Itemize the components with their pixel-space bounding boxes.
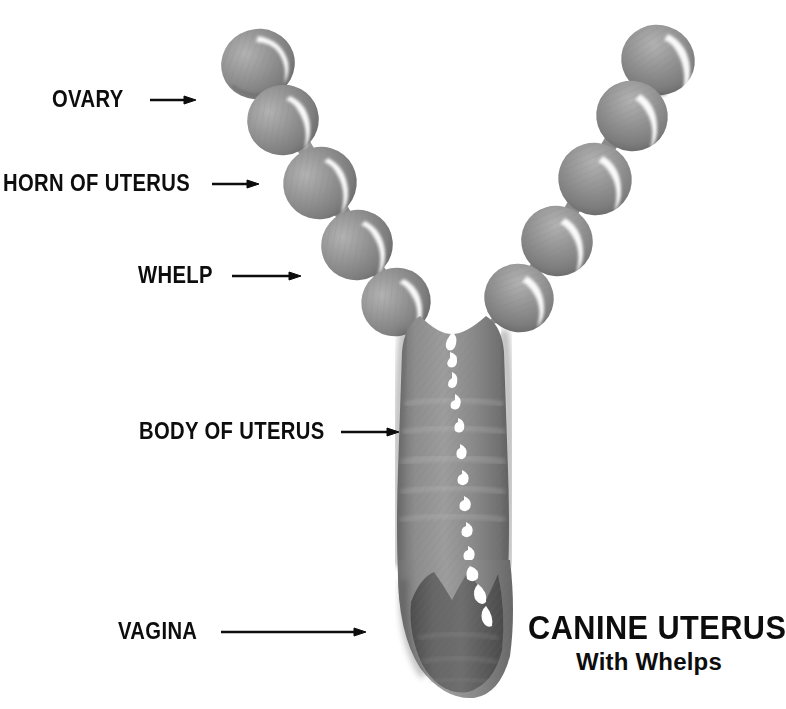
figure-title: CANINE UTERUS: [528, 609, 786, 647]
label-whelp: WHELP: [138, 262, 213, 289]
label-body-of-uterus: BODY OF UTERUS: [139, 418, 325, 445]
label-horn-of-uterus: HORN OF UTERUS: [3, 170, 190, 197]
label-ovary: OVARY: [52, 86, 123, 113]
uterus-body: [397, 316, 509, 572]
figure-subtitle: With Whelps: [576, 648, 722, 676]
label-vagina: VAGINA: [118, 618, 197, 645]
uterus-body-right-shadow: [504, 330, 509, 566]
